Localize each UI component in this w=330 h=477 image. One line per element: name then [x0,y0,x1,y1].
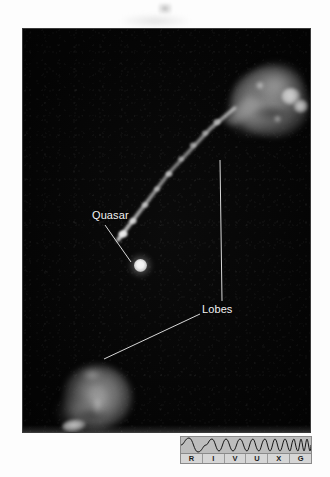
spectrum-band-ultraviolet: U [246,454,268,463]
spectrum-band-infrared: I [203,454,225,463]
spectrum-letter-i: I [212,454,214,463]
wave-svg [181,437,311,453]
spectrum-band-gamma: G [290,454,311,463]
spectrum-letter-g: G [298,454,304,463]
spectrum-wave-icon [181,437,311,454]
annotation-label-lobes: Lobes [202,303,232,315]
spectrum-letter-u: U [254,454,259,463]
paper-smudge-secondary [120,14,190,28]
figure-page: Quasar Lobes R I V U X G [0,0,330,477]
photo-bottom-edge-band [23,425,310,432]
spectrum-band-visible: V [225,454,247,463]
spectrum-letter-r: R [189,454,194,463]
photo-vignette [23,29,310,432]
spectrum-letter-x: X [276,454,281,463]
rivuxg-spectrum-bar: R I V U X G [180,436,312,464]
spectrum-band-letters: R I V U X G [181,454,311,463]
annotation-label-quasar: Quasar [92,209,129,221]
spectrum-letter-v: V [233,454,238,463]
astronomy-photo [23,29,310,432]
paper-smudge [158,3,172,14]
spectrum-band-xray: X [268,454,290,463]
spectrum-band-radio: R [181,454,203,463]
